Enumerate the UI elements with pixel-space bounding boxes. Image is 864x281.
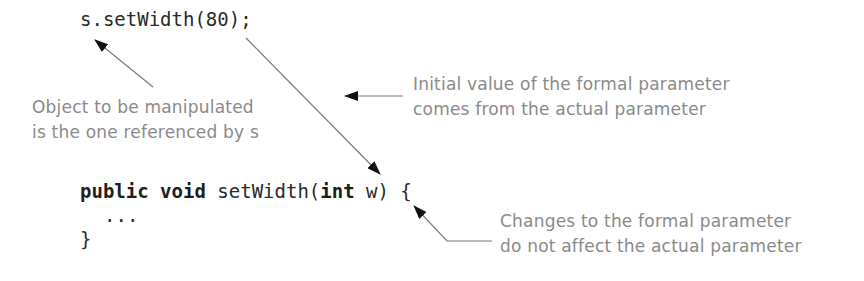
changes-note: Changes to the formal parameter do not a… bbox=[500, 209, 802, 259]
object-note: Object to be manipulated is the one refe… bbox=[32, 95, 259, 145]
method-close-brace: } bbox=[80, 228, 91, 250]
keyword-int: int bbox=[320, 180, 354, 202]
object-note-line1: Object to be manipulated bbox=[32, 95, 259, 120]
changes-note-line2: do not affect the actual parameter bbox=[500, 234, 802, 259]
arrow-actual-to-formal bbox=[246, 38, 380, 174]
method-header: public void setWidth(int w) { bbox=[80, 180, 412, 202]
keyword-void: void bbox=[160, 180, 206, 202]
keyword-public: public bbox=[80, 180, 149, 202]
initial-value-note: Initial value of the formal parameter co… bbox=[413, 72, 730, 122]
initial-value-note-line1: Initial value of the formal parameter bbox=[413, 72, 730, 97]
method-name: setWidth( bbox=[217, 180, 320, 202]
formal-parameter: w) { bbox=[366, 180, 412, 202]
initial-value-note-line2: comes from the actual parameter bbox=[413, 97, 730, 122]
call-statement: s.setWidth(80); bbox=[80, 8, 252, 30]
method-body: ... bbox=[104, 204, 138, 226]
arrow-changes bbox=[414, 206, 492, 241]
changes-note-line1: Changes to the formal parameter bbox=[500, 209, 802, 234]
arrow-to-object bbox=[95, 40, 153, 87]
object-note-line2: is the one referenced by s bbox=[32, 120, 259, 145]
